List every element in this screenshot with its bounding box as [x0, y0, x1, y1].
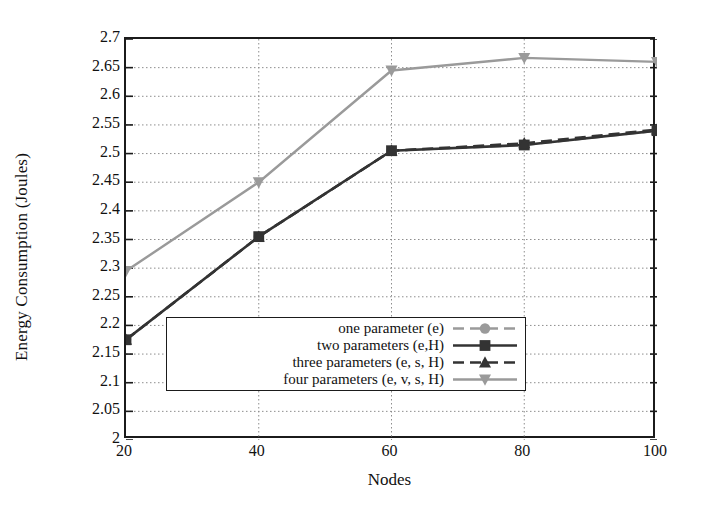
- x-tick-label: 100: [625, 442, 685, 460]
- legend-sample-svg: [451, 320, 519, 337]
- y-tick-label: 2.15: [68, 343, 120, 361]
- y-tick-label: 2.7: [68, 28, 120, 46]
- y-tick-label: 2.1: [68, 372, 120, 390]
- legend-item[interactable]: two parameters (e,H): [167, 337, 519, 354]
- chart-figure: Energy Consumption (Joules) 22.052.12.15…: [0, 0, 707, 514]
- y-tick-label: 2.35: [68, 229, 120, 247]
- y-tick-label: 2.05: [68, 400, 120, 418]
- legend-swatch: [451, 337, 519, 354]
- chart-legend: one parameter (e)two parameters (e,H)thr…: [166, 317, 526, 391]
- legend-sample-svg: [451, 371, 519, 388]
- triangle-down-marker: [253, 177, 265, 188]
- y-axis-title: Energy Consumption (Joules): [0, 0, 44, 514]
- y-tick-label: 2.5: [68, 143, 120, 161]
- legend-label: two parameters (e,H): [317, 337, 444, 354]
- legend-item[interactable]: one parameter (e): [167, 320, 519, 337]
- y-axis-tick-labels: 22.052.12.152.22.252.32.352.42.452.52.55…: [56, 0, 120, 514]
- legend-swatch: [451, 371, 519, 388]
- legend-sample-svg: [451, 337, 519, 354]
- y-tick-label: 2.2: [68, 314, 120, 332]
- legend-label: three parameters (e, s, H): [292, 354, 444, 371]
- x-tick-label: 40: [227, 442, 287, 460]
- square-marker: [480, 340, 491, 351]
- y-tick-label: 2.65: [68, 57, 120, 75]
- x-axis-title: Nodes: [124, 470, 655, 490]
- circle-marker: [480, 323, 490, 333]
- legend-label: one parameter (e): [338, 320, 444, 337]
- legend-item[interactable]: four parameters (e, v, s, H): [167, 371, 519, 388]
- x-tick-label: 60: [360, 442, 420, 460]
- x-tick-label: 20: [94, 442, 154, 460]
- legend-swatch: [451, 354, 519, 371]
- y-tick-label: 2.45: [68, 171, 120, 189]
- legend-sample-svg: [451, 354, 519, 371]
- legend-label: four parameters (e, v, s, H): [283, 371, 444, 388]
- y-tick-label: 2.6: [68, 85, 120, 103]
- y-tick-label: 2.4: [68, 200, 120, 218]
- y-tick-label: 2.3: [68, 257, 120, 275]
- legend-swatch: [451, 320, 519, 337]
- y-tick-label: 2.55: [68, 114, 120, 132]
- legend-item[interactable]: three parameters (e, s, H): [167, 354, 519, 371]
- x-tick-label: 80: [492, 442, 552, 460]
- y-tick-label: 2.25: [68, 286, 120, 304]
